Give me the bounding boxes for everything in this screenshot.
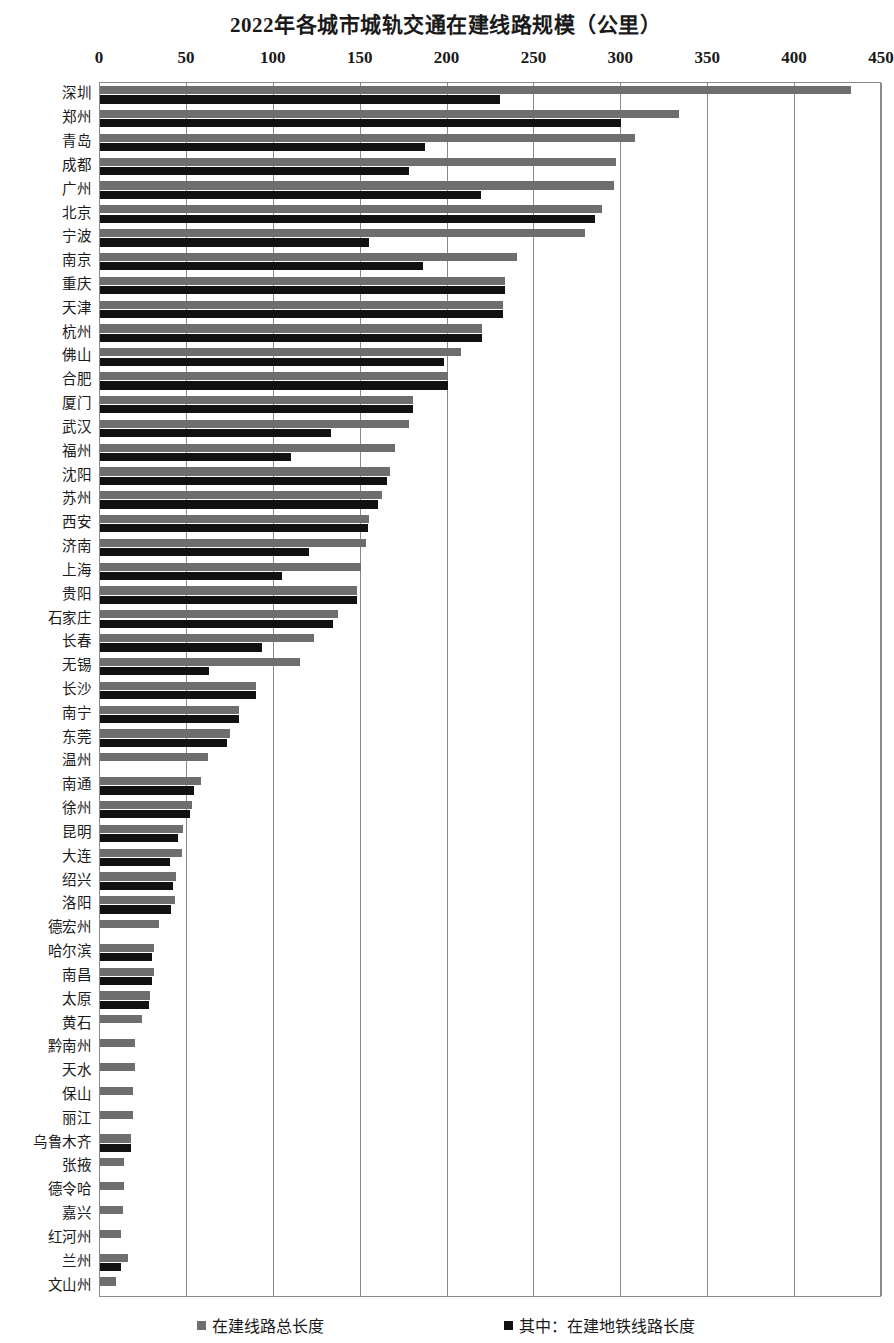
bar-total-43 <box>100 1111 133 1119</box>
category-label-17: 苏州 <box>62 491 91 506</box>
category-label-34: 洛阳 <box>62 896 91 911</box>
x-tick-label-200: 200 <box>434 48 460 68</box>
category-label-39: 黄石 <box>62 1016 91 1031</box>
category-label-6: 宁波 <box>62 229 91 244</box>
gridline-400 <box>794 83 795 1296</box>
bar-metro-3 <box>100 167 409 175</box>
bar-total-45 <box>100 1158 124 1166</box>
x-tick-label-150: 150 <box>347 48 373 68</box>
category-label-38: 太原 <box>62 992 91 1007</box>
category-label-7: 南京 <box>62 253 91 268</box>
chart-legend: 在建线路总长度其中：在建地铁线路长度 <box>0 1310 891 1340</box>
x-tick-label-100: 100 <box>260 48 286 68</box>
bar-metro-1 <box>100 119 621 127</box>
bar-total-30 <box>100 801 192 809</box>
bar-metro-20 <box>100 572 282 580</box>
bar-total-36 <box>100 944 154 952</box>
category-label-41: 天水 <box>62 1063 91 1078</box>
bar-total-15 <box>100 444 395 452</box>
bar-total-37 <box>100 968 154 976</box>
legend-swatch-metro-icon <box>504 1321 513 1330</box>
bar-metro-13 <box>100 405 413 413</box>
bar-total-1 <box>100 110 679 118</box>
category-label-15: 福州 <box>62 444 91 459</box>
bar-total-24 <box>100 658 300 666</box>
bar-total-19 <box>100 539 366 547</box>
category-label-31: 昆明 <box>62 825 91 840</box>
category-label-21: 贵阳 <box>62 587 91 602</box>
category-label-8: 重庆 <box>62 277 91 292</box>
bar-metro-4 <box>100 191 481 199</box>
bar-metro-17 <box>100 500 378 508</box>
bar-metro-27 <box>100 739 227 747</box>
bar-metro-44 <box>100 1144 131 1152</box>
bar-total-16 <box>100 467 390 475</box>
bar-total-14 <box>100 420 409 428</box>
category-label-26: 南宁 <box>62 706 91 721</box>
bar-total-46 <box>100 1182 124 1190</box>
bar-metro-25 <box>100 691 256 699</box>
category-label-30: 徐州 <box>62 801 91 816</box>
bar-metro-2 <box>100 143 425 151</box>
category-label-1: 郑州 <box>62 110 91 125</box>
bar-total-44 <box>100 1134 131 1142</box>
bar-metro-26 <box>100 715 239 723</box>
x-tick-label-350: 350 <box>694 48 720 68</box>
bar-total-7 <box>100 253 517 261</box>
x-tick-label-400: 400 <box>781 48 807 68</box>
legend-label-1: 其中：在建地铁线路长度 <box>519 1313 695 1337</box>
x-tick-label-50: 50 <box>177 48 194 68</box>
bar-metro-31 <box>100 834 178 842</box>
bar-total-31 <box>100 825 183 833</box>
category-label-16: 沈阳 <box>62 468 91 483</box>
category-label-14: 武汉 <box>62 420 91 435</box>
x-tick-label-300: 300 <box>608 48 634 68</box>
x-tick-label-250: 250 <box>521 48 547 68</box>
category-label-19: 济南 <box>62 539 91 554</box>
bar-metro-34 <box>100 905 171 913</box>
bar-total-34 <box>100 896 175 904</box>
bar-metro-29 <box>100 786 194 794</box>
bar-total-33 <box>100 872 176 880</box>
category-label-5: 北京 <box>62 206 91 221</box>
bar-total-42 <box>100 1087 133 1095</box>
bar-total-50 <box>100 1277 116 1285</box>
bar-total-41 <box>100 1063 135 1071</box>
gridline-450 <box>881 83 882 1296</box>
category-label-24: 无锡 <box>62 658 91 673</box>
category-label-47: 嘉兴 <box>62 1206 91 1221</box>
category-label-3: 成都 <box>62 158 91 173</box>
bar-metro-9 <box>100 310 503 318</box>
category-label-0: 深圳 <box>62 86 91 101</box>
bar-metro-33 <box>100 882 173 890</box>
bar-total-29 <box>100 777 201 785</box>
bar-total-9 <box>100 301 503 309</box>
bar-total-8 <box>100 277 505 285</box>
bar-total-32 <box>100 849 182 857</box>
bar-metro-7 <box>100 262 423 270</box>
bar-total-0 <box>100 86 851 94</box>
chart-title: 2022年各城市城轨交通在建线路规模（公里） <box>0 8 891 38</box>
legend-item-0[interactable]: 在建线路总长度 <box>197 1313 324 1337</box>
bar-total-49 <box>100 1254 128 1262</box>
bar-total-28 <box>100 753 208 761</box>
bar-total-6 <box>100 229 585 237</box>
category-label-35: 德宏州 <box>48 920 92 935</box>
category-label-43: 丽江 <box>62 1111 91 1126</box>
x-tick-label-450: 450 <box>868 48 894 68</box>
legend-item-1[interactable]: 其中：在建地铁线路长度 <box>504 1313 695 1337</box>
bar-metro-37 <box>100 977 152 985</box>
bar-metro-21 <box>100 596 357 604</box>
bar-total-35 <box>100 920 159 928</box>
gridline-200 <box>447 83 448 1296</box>
legend-label-0: 在建线路总长度 <box>212 1313 324 1337</box>
gridline-300 <box>620 83 621 1296</box>
category-label-44: 乌鲁木齐 <box>33 1135 91 1150</box>
bar-total-27 <box>100 729 230 737</box>
category-label-18: 西安 <box>62 515 91 530</box>
legend-swatch-total-icon <box>197 1321 206 1330</box>
bar-metro-12 <box>100 381 448 389</box>
bar-total-26 <box>100 706 239 714</box>
bar-metro-49 <box>100 1263 121 1271</box>
category-label-9: 天津 <box>62 301 91 316</box>
